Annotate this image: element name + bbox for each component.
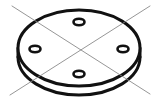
hole-right <box>118 46 129 52</box>
disc-technical-drawing: Circular disc with four holes <box>0 0 160 107</box>
hole-left <box>30 46 41 52</box>
hole-bottom <box>74 71 85 77</box>
hole-top <box>74 19 85 25</box>
drawing-canvas: Circular disc with four holes <box>0 0 160 107</box>
